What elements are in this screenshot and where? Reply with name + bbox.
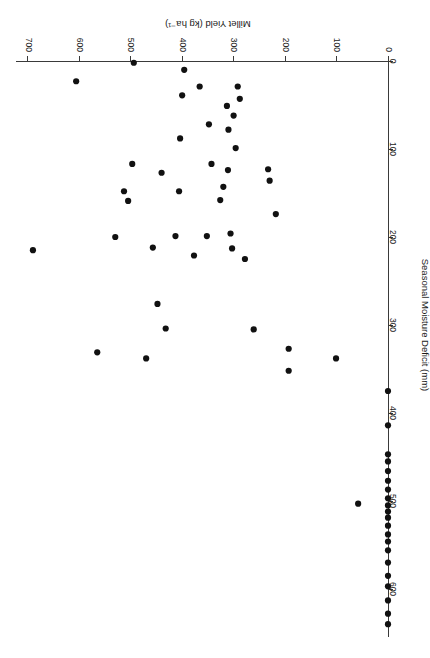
x-tick-label: 600 [75, 38, 85, 52]
y-tick-label: 500 [388, 494, 398, 508]
data-point [385, 451, 391, 457]
data-points-group [30, 60, 391, 628]
data-point [251, 326, 257, 332]
data-point [385, 611, 391, 617]
data-point [333, 355, 339, 361]
data-point [385, 468, 391, 474]
data-point [235, 83, 241, 89]
data-point [30, 247, 36, 253]
data-point [217, 197, 223, 203]
data-point [385, 621, 391, 627]
data-point [220, 184, 226, 190]
scatter-plot-figure: 0100200300400500600700010020030040050060… [0, 0, 430, 658]
data-point [73, 78, 79, 84]
x-axis-title: Millet Yield (kg ha⁻¹) [165, 19, 251, 30]
data-point [385, 573, 391, 579]
data-point [206, 121, 212, 127]
data-point [131, 60, 137, 66]
rotated-figure-canvas: 0100200300400500600700010020030040050060… [0, 0, 430, 658]
data-point [231, 112, 237, 118]
x-tick-label: 100 [332, 38, 342, 52]
data-point [176, 188, 182, 194]
y-tick-label: 400 [388, 406, 398, 420]
data-point [158, 170, 164, 176]
data-point [179, 92, 185, 98]
data-point [385, 531, 391, 537]
data-point [121, 188, 127, 194]
data-point [181, 67, 187, 73]
x-tick-label: 700 [24, 38, 34, 52]
data-point [233, 145, 239, 151]
data-point [224, 103, 230, 109]
y-axis-title: Seasonal Moisture Deficit (mm) [420, 259, 430, 392]
data-point [273, 211, 279, 217]
data-point [385, 422, 391, 428]
data-point [112, 234, 118, 240]
data-point [385, 515, 391, 521]
data-point [242, 256, 248, 262]
y-tick-label: 100 [388, 142, 398, 156]
data-point [385, 486, 391, 492]
y-tick-label: 0 [388, 59, 398, 64]
data-point [191, 252, 197, 258]
data-point [265, 166, 271, 172]
x-tick-label: 400 [178, 38, 188, 52]
data-point [385, 508, 391, 514]
x-tick-label: 500 [126, 38, 136, 52]
data-point [197, 83, 203, 89]
data-point [286, 368, 292, 374]
data-point [204, 233, 210, 239]
data-point [385, 523, 391, 529]
data-point [237, 96, 243, 102]
data-point [227, 230, 233, 236]
data-point [125, 198, 131, 204]
x-tick-label: 0 [384, 47, 394, 52]
data-point [150, 244, 156, 250]
data-point [385, 478, 391, 484]
data-point [154, 301, 160, 307]
y-tick-label: 200 [388, 230, 398, 244]
data-point [385, 538, 391, 544]
data-point [129, 161, 135, 167]
data-point [143, 355, 149, 361]
axes-group [16, 56, 393, 637]
data-point [94, 349, 100, 355]
data-point [225, 167, 231, 173]
data-point [385, 458, 391, 464]
plot-area: 0100200300400500600700010020030040050060… [0, 0, 430, 658]
x-tick-label: 300 [229, 38, 239, 52]
data-point [208, 161, 214, 167]
data-point [225, 127, 231, 133]
data-point [385, 388, 391, 394]
data-point [172, 233, 178, 239]
data-point [163, 325, 169, 331]
y-tick-label: 300 [388, 318, 398, 332]
data-point [355, 501, 361, 507]
data-point [385, 597, 391, 603]
data-point [385, 547, 391, 553]
x-tick-label: 200 [281, 38, 291, 52]
data-point [286, 346, 292, 352]
data-point [267, 178, 273, 184]
y-tick-label: 600 [388, 582, 398, 596]
data-point [177, 135, 183, 141]
data-point [385, 560, 391, 566]
data-point [229, 245, 235, 251]
scatter-chart: 0100200300400500600700010020030040050060… [0, 0, 430, 658]
